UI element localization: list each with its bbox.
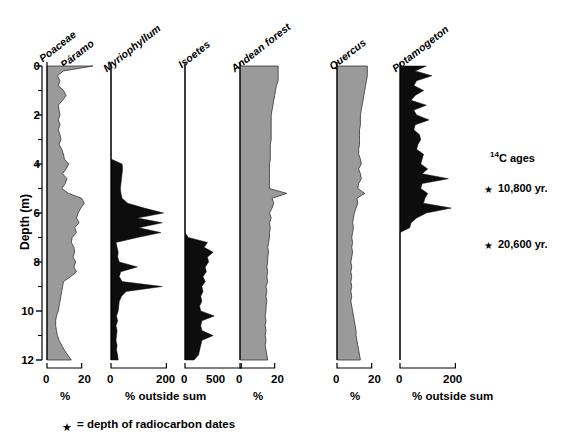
panel-curve-isoetes: [185, 66, 214, 360]
x-axis-quercus: [337, 363, 372, 368]
pollen-diagram-figure: Poaceae = Páramo Myriophyllum Isoetes An…: [0, 0, 562, 437]
x-axis-potamogeton: [400, 363, 455, 368]
x-axis-myriophyllum: [111, 363, 166, 368]
panels-group: [47, 66, 451, 360]
panel-curve-andean-forest: [240, 66, 287, 360]
x-axis-andean-forest: [240, 363, 275, 368]
panel-curve-poaceae: [47, 66, 93, 360]
x-axis-poaceae: [47, 363, 82, 368]
plot-surface: [0, 0, 562, 437]
x-axis-isoetes: [185, 363, 241, 368]
panel-curve-quercus: [337, 66, 367, 360]
panel-curve-potamogeton: [400, 66, 451, 360]
panel-curve-myriophyllum: [111, 66, 164, 360]
